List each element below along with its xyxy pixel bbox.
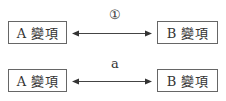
relation-label-2: a (100, 56, 130, 71)
double-arrow-icon-1 (72, 29, 152, 38)
box-a-variable-2: A 變項 (8, 69, 67, 92)
box-b-variable-2: B 變項 (157, 69, 218, 92)
relation-label-1: ① (100, 7, 130, 22)
double-arrow-icon-2 (72, 77, 152, 86)
box-a-variable-1: A 變項 (8, 21, 67, 44)
box-b-variable-1: B 變項 (157, 21, 218, 44)
